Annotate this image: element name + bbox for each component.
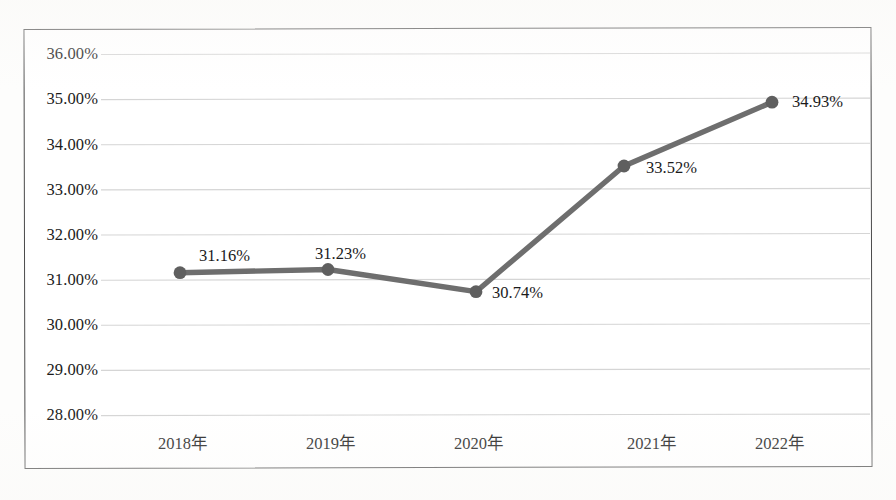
line-chart: 36.00% 35.00% 34.00% 33.00% 32.00% 31.00… bbox=[0, 0, 896, 500]
y-axis-tick-label: 30.00% bbox=[16, 315, 98, 335]
y-axis-tick-label: 36.00% bbox=[16, 44, 98, 64]
x-axis-tick-label: 2018年 bbox=[158, 430, 208, 454]
x-axis-tick-label: 2020年 bbox=[454, 430, 504, 454]
y-axis-tick-label: 29.00% bbox=[16, 360, 98, 380]
y-axis-tick-label: 34.00% bbox=[16, 135, 98, 155]
y-axis-tick-label: 35.00% bbox=[16, 89, 98, 109]
x-axis-tick-label: 2022年 bbox=[755, 430, 805, 454]
y-axis-tick-label: 31.00% bbox=[16, 270, 98, 290]
y-axis-tick-label: 33.00% bbox=[16, 180, 98, 200]
y-axis-tick-label: 28.00% bbox=[16, 405, 98, 425]
data-point-label: 33.52% bbox=[646, 158, 697, 178]
data-point-label: 34.93% bbox=[792, 92, 843, 112]
x-axis-tick-label: 2021年 bbox=[627, 430, 677, 454]
data-point-label: 31.16% bbox=[199, 246, 250, 266]
y-axis-tick-label: 32.00% bbox=[16, 225, 98, 245]
x-axis-tick-label: 2019年 bbox=[306, 430, 356, 454]
data-point-label: 30.74% bbox=[492, 283, 543, 303]
chart-plot-frame bbox=[23, 27, 872, 469]
data-point-label: 31.23% bbox=[315, 244, 366, 264]
